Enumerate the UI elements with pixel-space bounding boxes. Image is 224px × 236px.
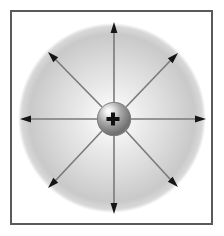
plus-sign-vertical-bar	[111, 113, 115, 126]
figure-container: + Electric field of a positive point cha…	[0, 0, 224, 236]
point-charge	[97, 102, 131, 136]
electric-field-diagram	[0, 0, 224, 236]
